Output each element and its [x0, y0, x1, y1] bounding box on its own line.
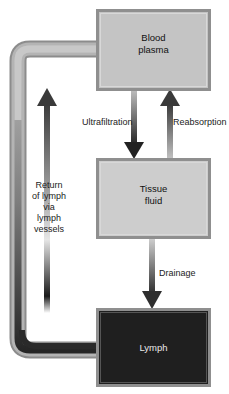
return-label-line1: Return [29, 180, 69, 191]
tissue-fluid-label-line1: Tissue [140, 183, 168, 195]
return-label-line2: of lymph [29, 191, 69, 202]
return-label-line4: lymph [29, 213, 69, 224]
lymph-label: Lymph [139, 342, 167, 354]
return-label-line3: via [29, 202, 69, 213]
drainage-label: Drainage [159, 268, 196, 279]
return-label-line5: vessels [29, 224, 69, 235]
tissue-fluid-node: Tissue fluid [96, 158, 211, 239]
ultrafiltration-arrow-head [124, 142, 144, 159]
lymph-node: Lymph [96, 308, 211, 387]
return-label: Return of lymph via lymph vessels [29, 180, 69, 235]
reabsorption-label: Reabsorption [173, 117, 227, 128]
drainage-arrow-shaft [149, 238, 155, 292]
blood-plasma-label-line2: plasma [138, 44, 169, 56]
blood-plasma-node: Blood plasma [96, 9, 211, 91]
return-arrow-head [37, 88, 57, 106]
drainage-arrow-head [142, 291, 162, 309]
ultrafiltration-label: Ultrafiltration [82, 117, 133, 128]
blood-plasma-label-line1: Blood [138, 32, 169, 44]
tissue-fluid-label-line2: fluid [140, 195, 168, 207]
reabsorption-arrow-shaft [167, 104, 173, 160]
reabsorption-arrow-head [160, 89, 180, 106]
